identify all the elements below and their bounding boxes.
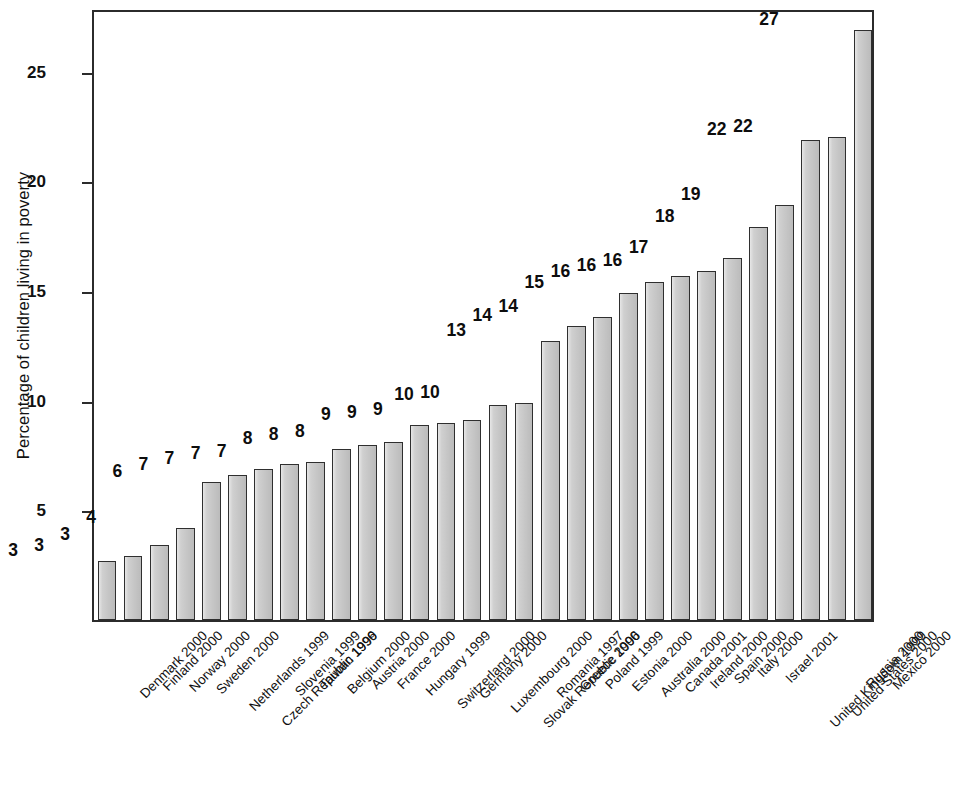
bar (619, 293, 638, 620)
bar (410, 425, 429, 620)
bar (463, 420, 482, 620)
bar (593, 317, 612, 620)
bar (358, 445, 377, 620)
bar (801, 140, 820, 620)
y-axis-title-text: Percentage of children living in poverty (15, 171, 34, 458)
bar (437, 423, 456, 620)
y-axis-title: Percentage of children living in poverty (0, 0, 48, 630)
bar (541, 341, 560, 620)
x-axis-tick-label: United States 2000 (848, 628, 940, 720)
y-axis-tick-label: 15 (0, 282, 46, 302)
y-axis-tick-label: 10 (0, 392, 46, 412)
bar (749, 227, 768, 620)
bar-value-label: 3 (50, 525, 80, 544)
bar (645, 282, 664, 620)
bar (671, 276, 690, 620)
bar (228, 475, 247, 620)
y-axis-tick-label: 25 (0, 63, 46, 83)
bar (202, 482, 221, 620)
bar (280, 464, 299, 620)
bar-value-label: 3 (24, 536, 54, 555)
bar (854, 30, 873, 620)
bar (567, 326, 586, 620)
bar (384, 442, 403, 620)
bar (150, 545, 169, 620)
bar (306, 462, 325, 620)
bar (723, 258, 742, 620)
bar (828, 137, 847, 620)
bar (489, 405, 508, 620)
bar (332, 449, 351, 620)
bar-value-label: 3 (0, 541, 28, 560)
y-axis-tick-label: 20 (0, 172, 46, 192)
bar (515, 403, 534, 620)
bar (124, 556, 143, 620)
bar (176, 528, 195, 620)
bar (254, 469, 273, 620)
bar (775, 205, 794, 620)
bar (98, 561, 117, 620)
y-axis-tick-label: 5 (0, 501, 46, 521)
plot-area (92, 10, 874, 622)
bar (697, 271, 716, 620)
